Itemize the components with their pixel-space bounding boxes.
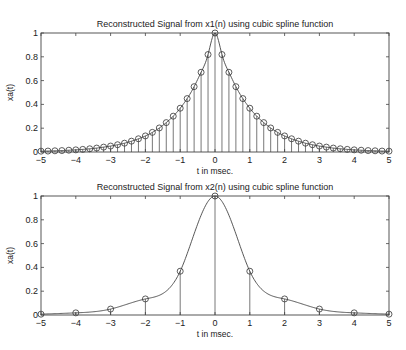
y-tick-label: 0.4 bbox=[25, 262, 38, 272]
y-tick-label: 0.2 bbox=[25, 286, 38, 296]
y-tick-label: 0.6 bbox=[25, 76, 38, 86]
x-tick-label: 2 bbox=[282, 155, 287, 165]
x-axis: −5−4−3−2−1012345t in msec. bbox=[36, 33, 392, 176]
x-tick-label: −3 bbox=[105, 155, 115, 165]
y-tick-label: 0.2 bbox=[25, 123, 38, 133]
y-axis: 00.20.40.60.81xa(t) bbox=[5, 28, 389, 157]
chart-title: Reconstructed Signal from x2(n) using cu… bbox=[97, 182, 334, 192]
x-tick-label: 0 bbox=[212, 318, 217, 328]
x-tick-label: 5 bbox=[386, 155, 391, 165]
x-axis: −5−4−3−2−1012345t in msec. bbox=[36, 196, 392, 339]
stem-lines bbox=[41, 196, 389, 315]
x-tick-label: 5 bbox=[386, 318, 391, 328]
x-axis-label: t in msec. bbox=[197, 329, 233, 339]
y-tick-label: 1 bbox=[33, 191, 38, 201]
x-tick-label: 4 bbox=[352, 155, 357, 165]
y-tick-label: 0 bbox=[33, 310, 38, 320]
y-tick-label: 0 bbox=[33, 147, 38, 157]
y-axis-label: xa(t) bbox=[5, 247, 15, 264]
figure: Reconstructed Signal from x1(n) using cu… bbox=[0, 0, 406, 350]
x-tick-label: 2 bbox=[282, 318, 287, 328]
x-tick-label: 3 bbox=[317, 318, 322, 328]
x-tick-label: −1 bbox=[175, 318, 185, 328]
x-tick-label: 0 bbox=[212, 155, 217, 165]
y-tick-label: 1 bbox=[33, 28, 38, 38]
plot-x2-reconstruction: Reconstructed Signal from x2(n) using cu… bbox=[5, 182, 392, 339]
y-tick-label: 0.8 bbox=[25, 52, 38, 62]
x-tick-label: 4 bbox=[352, 318, 357, 328]
x-tick-label: −3 bbox=[105, 318, 115, 328]
x-tick-label: 3 bbox=[317, 155, 322, 165]
x-axis-label: t in msec. bbox=[197, 166, 233, 176]
x-tick-label: −1 bbox=[175, 155, 185, 165]
x-tick-label: −2 bbox=[140, 318, 150, 328]
chart-title: Reconstructed Signal from x1(n) using cu… bbox=[97, 19, 334, 29]
stem-lines bbox=[41, 33, 389, 152]
y-tick-label: 0.4 bbox=[25, 99, 38, 109]
x-tick-label: −2 bbox=[140, 155, 150, 165]
y-tick-label: 0.8 bbox=[25, 215, 38, 225]
x-tick-label: 1 bbox=[247, 155, 252, 165]
y-axis-label: xa(t) bbox=[5, 84, 15, 101]
x-tick-label: 1 bbox=[247, 318, 252, 328]
x-tick-label: −4 bbox=[71, 318, 81, 328]
y-tick-label: 0.6 bbox=[25, 239, 38, 249]
x-tick-label: −4 bbox=[71, 155, 81, 165]
plot-x1-reconstruction: Reconstructed Signal from x1(n) using cu… bbox=[5, 19, 392, 176]
y-axis: 00.20.40.60.81xa(t) bbox=[5, 191, 389, 320]
